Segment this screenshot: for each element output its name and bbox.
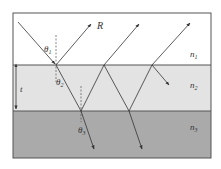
thin-film-diagram: R θ1 θ2 θ3 t n1 n2 n3 — [0, 0, 221, 169]
label-R: R — [96, 20, 103, 31]
layer-n1 — [13, 13, 211, 65]
layer-n2 — [13, 65, 211, 111]
layer-n3 — [13, 111, 211, 158]
